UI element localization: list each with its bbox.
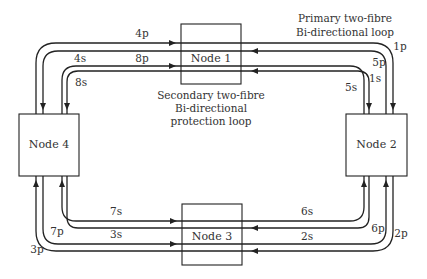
- secondary-loop-caption-line2: Bi-directional: [175, 102, 248, 114]
- arrow-right-icon: [169, 63, 176, 69]
- fibre-label-2p: 2p: [394, 227, 408, 239]
- arrow-up-icon: [59, 180, 65, 187]
- arrow-up-icon: [361, 180, 367, 187]
- fibre-label-1p: 1p: [393, 40, 407, 52]
- arrow-down-icon: [390, 103, 396, 110]
- fibre-label-8p: 8p: [135, 52, 149, 64]
- fibre-label-6s: 6s: [301, 205, 313, 217]
- node-1: Node 1: [181, 24, 241, 84]
- fibre-label-7s: 7s: [110, 205, 122, 217]
- node-2: Node 2: [346, 114, 407, 176]
- node-4: Node 4: [19, 114, 79, 176]
- secondary-loop-caption-line1: Secondary two-fibre: [157, 89, 265, 101]
- arrow-up-icon: [33, 180, 39, 187]
- primary-loop-caption-line1: Primary two-fibre: [298, 12, 392, 24]
- arrow-up-icon: [383, 180, 389, 187]
- secondary-loop-caption-line3: protection loop: [170, 115, 251, 127]
- fibre-label-5p: 5p: [372, 56, 386, 68]
- node-3: Node 3: [182, 204, 242, 265]
- arrow-right-icon: [169, 40, 176, 46]
- arrow-right-icon: [170, 218, 177, 224]
- arrow-right-icon: [170, 241, 177, 247]
- arrow-down-icon: [64, 103, 70, 110]
- primary-fibre-outer: [36, 43, 393, 251]
- ring-network-diagram: Node 1 Node 2 Node 3 Node 4 Primary two-…: [0, 0, 427, 279]
- arrow-left-icon: [251, 48, 258, 54]
- fibre-label-2s: 2s: [301, 230, 313, 242]
- arrow-left-icon: [251, 248, 258, 254]
- arrow-left-icon: [251, 68, 258, 74]
- fibre-label-7p: 7p: [50, 225, 64, 237]
- fibre-label-3p: 3p: [30, 243, 44, 255]
- arrow-down-icon: [366, 103, 372, 110]
- fibre-label-5s: 5s: [345, 81, 357, 93]
- fibre-label-4p: 4p: [135, 27, 149, 39]
- fibre-label-3s: 3s: [110, 228, 122, 240]
- fibre-label-6p: 6p: [371, 222, 385, 234]
- arrow-left-icon: [251, 225, 258, 231]
- arrow-down-icon: [40, 103, 46, 110]
- primary-loop-caption-line2: Bi-directional loop: [296, 26, 394, 38]
- node-2-label: Node 2: [356, 138, 396, 151]
- fibre-label-4s: 4s: [74, 52, 86, 64]
- node-4-label: Node 4: [29, 138, 69, 151]
- fibre-label-1s: 1s: [369, 72, 381, 84]
- primary-fibre-inner: [43, 51, 386, 244]
- node-3-label: Node 3: [192, 230, 232, 243]
- fibre-label-8s: 8s: [75, 76, 87, 88]
- node-1-label: Node 1: [191, 52, 231, 65]
